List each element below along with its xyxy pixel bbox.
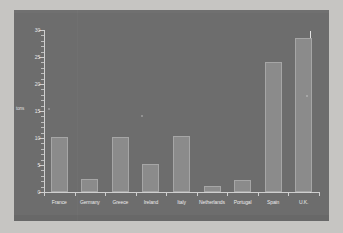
bar-germany[interactable] <box>81 179 98 192</box>
scan-artifact <box>48 108 50 110</box>
scan-noise <box>14 10 329 13</box>
y-tick-label: 10 <box>16 136 40 141</box>
y-tick-minor <box>41 52 44 53</box>
x-tick-label: U.K. <box>288 199 319 205</box>
y-tick-minor <box>41 73 44 74</box>
plot-area: tons 051015202530 FranceGermanyGreeceIre… <box>14 10 329 221</box>
x-tick <box>166 192 167 196</box>
x-tick-label: Ireland <box>136 199 167 205</box>
y-tick-label: 15 <box>16 109 40 114</box>
x-tick-label: Spain <box>258 199 289 205</box>
x-tick-label: Greece <box>105 199 136 205</box>
y-tick-label: 20 <box>16 82 40 87</box>
bar-france[interactable] <box>51 137 68 192</box>
y-tick-minor <box>41 62 44 63</box>
bar-netherlands[interactable] <box>204 186 221 192</box>
scan-noise <box>14 215 329 221</box>
x-tick-label: Portugal <box>227 199 258 205</box>
y-tick-minor <box>41 68 44 69</box>
y-tick-minor <box>41 100 44 101</box>
x-tick <box>227 192 228 196</box>
y-tick-minor <box>41 116 44 117</box>
x-tick-label: Germany <box>75 199 106 205</box>
y-tick-minor <box>41 160 44 161</box>
bar-portugal[interactable] <box>234 180 251 192</box>
y-tick-minor <box>41 149 44 150</box>
y-tick-minor <box>41 176 44 177</box>
x-tick <box>288 192 289 196</box>
y-tick-minor <box>41 46 44 47</box>
x-tick-label: Italy <box>166 199 197 205</box>
x-tick <box>75 192 76 196</box>
x-tick <box>105 192 106 196</box>
y-tick-minor <box>41 127 44 128</box>
bar-spain[interactable] <box>265 62 282 192</box>
x-tick <box>258 192 259 196</box>
y-tick-minor <box>41 35 44 36</box>
y-tick-minor <box>41 170 44 171</box>
y-tick-minor <box>41 143 44 144</box>
x-axis-line <box>44 192 319 193</box>
scan-artifact <box>141 115 143 117</box>
y-tick-minor <box>41 154 44 155</box>
x-tick-label: Netherlands <box>197 199 228 205</box>
bar-uk[interactable] <box>295 38 312 192</box>
x-tick-label: France <box>44 199 75 205</box>
y-tick-minor <box>41 106 44 107</box>
y-tick-minor <box>41 41 44 42</box>
bar-ireland[interactable] <box>142 164 159 192</box>
bar-chart: tons 051015202530 FranceGermanyGreeceIre… <box>14 10 329 221</box>
y-tick-label: 30 <box>16 28 40 33</box>
screenshot-root: tons 051015202530 FranceGermanyGreeceIre… <box>0 0 343 233</box>
y-tick-minor <box>41 133 44 134</box>
bar-greece[interactable] <box>112 137 129 192</box>
y-tick-minor <box>41 95 44 96</box>
y-tick-minor <box>41 122 44 123</box>
bar-italy[interactable] <box>173 136 190 192</box>
y-tick-minor <box>41 79 44 80</box>
x-tick <box>136 192 137 196</box>
y-tick-label: 0 <box>16 190 40 195</box>
y-tick-minor <box>41 89 44 90</box>
x-tick <box>319 192 320 196</box>
x-tick <box>44 192 45 196</box>
y-tick-minor <box>41 187 44 188</box>
y-tick-minor <box>41 181 44 182</box>
scan-noise <box>77 10 78 221</box>
y-tick-label: 5 <box>16 163 40 168</box>
x-tick <box>197 192 198 196</box>
y-axis-line <box>44 30 45 193</box>
y-tick-label: 25 <box>16 55 40 60</box>
